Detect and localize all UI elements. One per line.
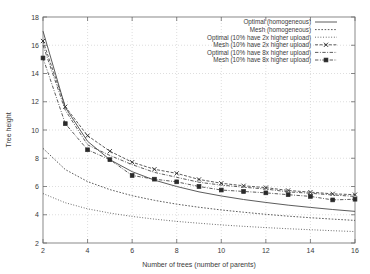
y-tick-label: 16 (31, 42, 39, 49)
data-point-marker-square (331, 198, 335, 202)
tree-height-line-chart: 24681012141618246810121416 Number of tre… (0, 0, 370, 274)
data-point-marker-square (108, 158, 112, 162)
y-tick-label: 14 (31, 70, 39, 77)
x-tick-label: 14 (307, 247, 315, 254)
x-tick-label: 16 (351, 247, 359, 254)
x-axis-title: Number of trees (number of parents) (142, 261, 256, 269)
y-tick-label: 2 (35, 240, 39, 247)
x-tick-label: 2 (41, 247, 45, 254)
data-point-marker-square (41, 56, 45, 60)
data-point-marker-square (353, 197, 357, 201)
y-tick-label: 12 (31, 98, 39, 105)
legend-label-5: Mesh (10% have 8x higher upload) (213, 56, 311, 64)
y-axis-title: Tree height (5, 112, 13, 147)
x-tick-label: 6 (130, 247, 134, 254)
data-point-marker-square (175, 180, 179, 184)
x-tick-label: 4 (86, 247, 90, 254)
data-point-marker-square (309, 194, 313, 198)
data-point-marker-square (86, 148, 90, 152)
data-point-marker-square (219, 188, 223, 192)
data-point-marker-square (130, 174, 134, 178)
y-tick-label: 8 (35, 155, 39, 162)
chart-container: 24681012141618246810121416 Number of tre… (0, 0, 370, 274)
data-point-marker-square (264, 191, 268, 195)
y-tick-label: 4 (35, 211, 39, 218)
data-point-marker-square (324, 58, 328, 62)
y-tick-label: 6 (35, 183, 39, 190)
data-point-marker-square (153, 177, 157, 181)
y-tick-label: 10 (31, 127, 39, 134)
data-point-marker-square (197, 185, 201, 189)
data-point-marker-square (63, 122, 67, 126)
x-tick-label: 10 (217, 247, 225, 254)
y-tick-label: 18 (31, 14, 39, 21)
x-tick-label: 8 (175, 247, 179, 254)
x-tick-label: 12 (262, 247, 270, 254)
data-point-marker-square (286, 193, 290, 197)
data-point-marker-square (242, 190, 246, 194)
chart-background (0, 0, 370, 274)
